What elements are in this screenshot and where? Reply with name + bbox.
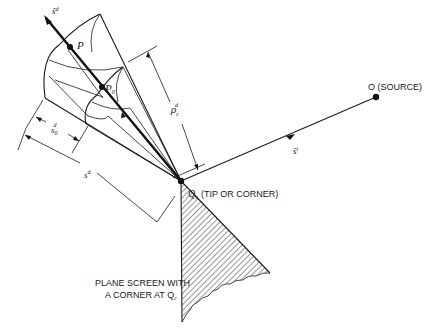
- label-s-hat-d: ŝd: [52, 6, 60, 16]
- s-dimension: [18, 128, 175, 222]
- diffraction-diagram: ŝd P P0 ρcd s0d sd ŝi O (SOURCE) Qc(TIP …: [0, 0, 439, 333]
- s0-dimension: [26, 100, 88, 153]
- plane-screen: [181, 181, 270, 322]
- label-s: sd: [84, 169, 92, 180]
- label-s-hat-i: ŝi: [293, 146, 299, 156]
- label-corner: Qc(TIP OR CORNER): [188, 188, 278, 200]
- rho-dimension: [128, 46, 205, 178]
- label-p: P: [76, 39, 84, 51]
- label-screen-line2: A CORNER AT Qc: [105, 290, 177, 301]
- label-screen-line1: PLANE SCREEN WITH: [95, 278, 190, 288]
- label-p0: P0: [104, 82, 115, 95]
- source-dot: [373, 94, 379, 100]
- label-s0: s0d: [51, 122, 58, 136]
- point-p-dot: [67, 44, 73, 50]
- inner-wavefront: [85, 67, 123, 124]
- label-source: O (SOURCE): [368, 82, 422, 92]
- incident-ray: [181, 94, 379, 181]
- label-rho: ρcd: [170, 102, 179, 117]
